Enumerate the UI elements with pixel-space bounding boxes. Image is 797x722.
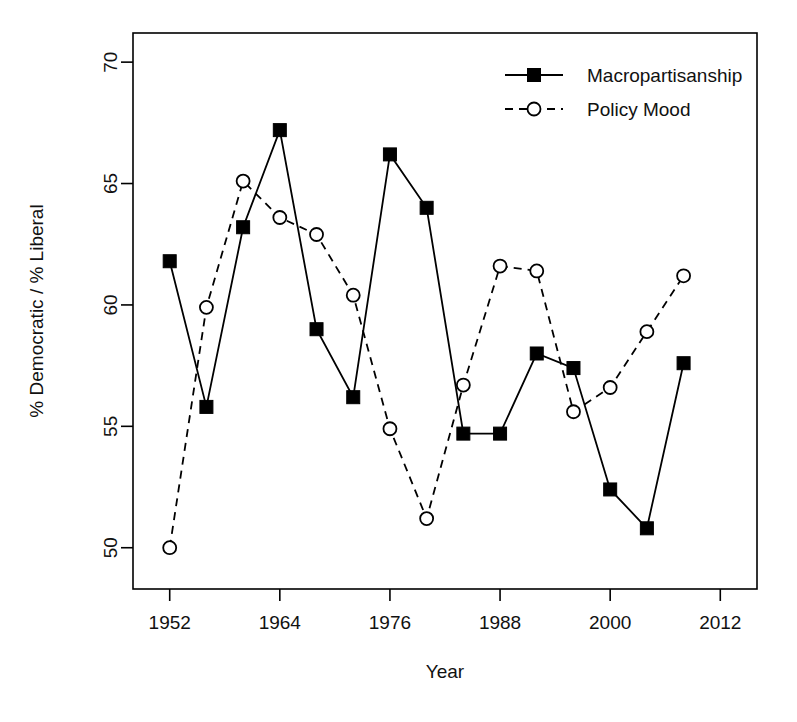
y-tick-label: 60	[101, 294, 122, 315]
data-point-circle	[383, 422, 396, 435]
x-tick-label: 1976	[369, 612, 411, 633]
data-point-circle	[273, 211, 286, 224]
data-point-circle	[347, 289, 360, 302]
data-point-square	[494, 427, 507, 440]
x-tick-label: 2012	[699, 612, 741, 633]
data-point-square	[567, 362, 580, 375]
data-point-circle	[604, 381, 617, 394]
data-point-circle	[457, 379, 470, 392]
data-point-circle	[310, 228, 323, 241]
legend-label: Policy Mood	[587, 99, 691, 120]
data-point-square	[604, 483, 617, 496]
data-point-circle	[200, 301, 213, 314]
x-tick-label: 1988	[479, 612, 521, 633]
data-point-circle	[420, 512, 433, 525]
data-point-square	[237, 221, 250, 234]
legend-marker-circle	[528, 103, 541, 116]
data-point-circle	[494, 260, 507, 273]
data-point-square	[273, 124, 286, 137]
data-point-circle	[567, 405, 580, 418]
data-point-square	[383, 148, 396, 161]
y-axis: 5055606570% Democratic / % Liberal	[26, 52, 134, 559]
y-tick-label: 70	[101, 52, 122, 73]
line-chart: 195219641976198820002012Year5055606570% …	[0, 0, 797, 722]
data-point-square	[310, 323, 323, 336]
data-point-square	[677, 357, 690, 370]
data-point-square	[530, 347, 543, 360]
data-point-circle	[640, 325, 653, 338]
x-tick-label: 1952	[149, 612, 191, 633]
data-point-square	[640, 522, 653, 535]
chart-figure: 195219641976198820002012Year5055606570% …	[0, 0, 797, 722]
data-point-circle	[163, 541, 176, 554]
x-tick-label: 2000	[589, 612, 631, 633]
data-point-circle	[237, 175, 250, 188]
data-point-square	[420, 201, 433, 214]
y-tick-label: 50	[101, 537, 122, 558]
data-point-square	[163, 255, 176, 268]
data-point-square	[347, 391, 360, 404]
legend-marker-square	[528, 69, 541, 82]
y-axis-title: % Democratic / % Liberal	[26, 204, 47, 417]
y-tick-label: 65	[101, 173, 122, 194]
x-axis: 195219641976198820002012Year	[149, 589, 742, 682]
data-point-square	[200, 400, 213, 413]
data-point-circle	[530, 264, 543, 277]
x-axis-title: Year	[426, 661, 465, 682]
data-point-circle	[677, 269, 690, 282]
legend-label: Macropartisanship	[587, 65, 742, 86]
data-point-square	[457, 427, 470, 440]
y-tick-label: 55	[101, 416, 122, 437]
x-tick-label: 1964	[259, 612, 302, 633]
